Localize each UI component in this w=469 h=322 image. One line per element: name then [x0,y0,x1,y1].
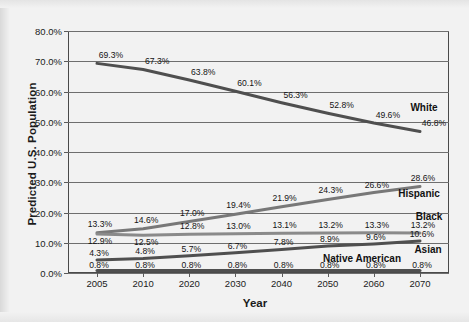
point-label: 49.6% [376,110,400,120]
series-label-native-american: Native American [323,253,401,264]
series-label-white: White [410,102,437,113]
point-label: 5.7% [181,244,201,254]
point-label: 12.8% [180,221,204,231]
point-label: 0.8% [181,260,201,270]
point-label: 13.1% [272,220,296,230]
point-label: 0.8% [89,260,109,270]
point-label: 60.1% [237,78,261,88]
point-label: 12.9% [88,236,112,246]
point-label: 0.8% [135,260,155,270]
point-label: 19.4% [226,200,250,210]
point-label: 46.8% [422,118,446,128]
point-label: 67.3% [145,56,169,66]
point-label: 6.7% [228,241,248,251]
point-label: 7.8% [274,237,294,247]
point-label: 8.9% [320,234,340,244]
point-label: 0.8% [412,260,432,270]
series-label-hispanic: Hispanic [398,188,440,199]
point-label: 13.3% [365,220,389,230]
point-label: 13.0% [226,221,250,231]
series-line-white [97,63,420,131]
point-label: 0.8% [274,260,294,270]
point-label: 4.8% [135,246,155,256]
point-label: 9.6% [366,232,386,242]
point-label: 0.8% [228,260,248,270]
point-label: 17.0% [180,208,204,218]
point-label: 63.8% [191,67,215,77]
point-label: 26.6% [365,180,389,190]
point-label: 4.3% [89,248,109,258]
chart-screenshot: Predicted U.S. Population Year 0.0%10.0%… [0,0,469,322]
point-label: 13.2% [319,220,343,230]
point-label: 14.6% [134,215,158,225]
series-lines [0,0,469,322]
point-label: 21.9% [272,193,296,203]
point-label: 56.3% [283,90,307,100]
point-label: 69.3% [99,50,123,60]
line-chart: Predicted U.S. Population Year 0.0%10.0%… [0,0,469,322]
series-label-asian: Asian [414,244,441,255]
point-label: 28.6% [411,173,435,183]
series-label-black: Black [416,211,443,222]
point-label: 13.3% [88,219,112,229]
point-label: 52.8% [330,100,354,110]
point-label: 10.6% [410,229,434,239]
point-label: 24.3% [319,185,343,195]
